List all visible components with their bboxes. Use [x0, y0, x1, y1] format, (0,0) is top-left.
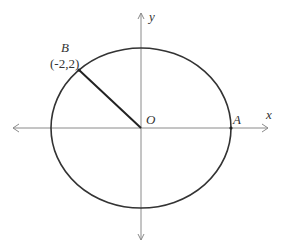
x-axis-label: x [266, 108, 272, 121]
y-axis-label: y [149, 10, 155, 23]
point-a-label: A [233, 113, 241, 126]
origin-label: O [146, 113, 155, 126]
point-b-label: B [61, 41, 69, 54]
diagram-canvas: B (-2,2) O A x y [0, 0, 281, 246]
segment-ob [79, 70, 141, 128]
point-b-coords: (-2,2) [50, 57, 79, 70]
